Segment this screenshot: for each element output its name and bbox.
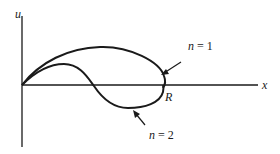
arrow-n1-icon — [161, 62, 181, 75]
y-axis-label: u — [15, 7, 21, 21]
label-n2-eq: = 2 — [155, 128, 174, 142]
label-n2: n = 2 — [149, 128, 174, 142]
label-n1-eq: = 1 — [194, 39, 213, 53]
arrow-n2-icon — [133, 110, 145, 125]
curve-n2 — [22, 64, 163, 108]
curve-n1 — [22, 47, 165, 88]
x-axis-label: x — [261, 78, 268, 92]
label-n1: n = 1 — [188, 39, 213, 53]
diagram-canvas: u x R n = 1 n = 2 — [0, 0, 280, 154]
point-r-label: R — [164, 90, 173, 104]
